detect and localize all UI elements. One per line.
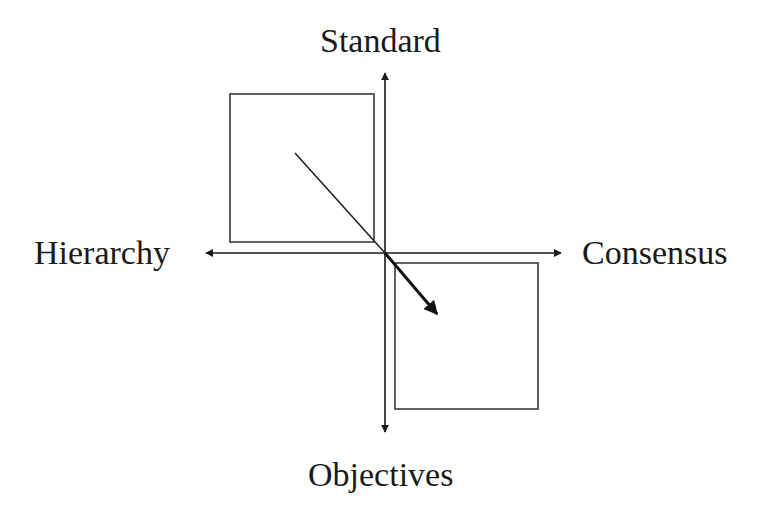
axis-label-standard: Standard <box>320 24 441 58</box>
axis-label-objectives: Objectives <box>308 458 453 492</box>
lower-right-square <box>395 263 538 409</box>
shift-arrow-tail <box>295 153 385 253</box>
axis-label-consensus: Consensus <box>582 236 727 270</box>
diagram-canvas: Standard Hierarchy Consensus Objectives <box>0 0 768 522</box>
upper-left-square <box>230 94 374 242</box>
shift-arrow-head <box>385 253 437 314</box>
axis-label-hierarchy: Hierarchy <box>34 236 170 270</box>
